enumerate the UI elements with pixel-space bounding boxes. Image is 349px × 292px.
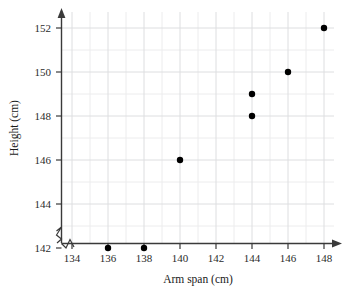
x-axis-title: Arm span (cm) xyxy=(163,273,233,286)
y-axis-ticks xyxy=(56,28,62,248)
y-axis-arrow-icon xyxy=(58,8,66,18)
data-point xyxy=(177,157,183,163)
data-point xyxy=(285,69,291,75)
x-axis-tick-label: 142 xyxy=(208,252,225,264)
y-axis-tick-label: 144 xyxy=(35,198,52,210)
y-axis-tick-label: 146 xyxy=(35,154,52,166)
x-axis-tick-labels: 134136138140142144146148 xyxy=(64,252,333,264)
y-axis-tick-label: 152 xyxy=(35,22,52,34)
data-point xyxy=(105,245,111,251)
data-point xyxy=(321,25,327,31)
data-point xyxy=(249,113,255,119)
grid-minor-lines xyxy=(62,12,334,243)
x-axis-tick-label: 138 xyxy=(136,252,153,264)
y-axis-tick-label: 150 xyxy=(35,66,52,78)
data-point xyxy=(249,91,255,97)
x-axis-tick-label: 136 xyxy=(100,252,117,264)
x-axis-tick-label: 140 xyxy=(172,252,189,264)
x-axis-tick-label: 148 xyxy=(316,252,333,264)
y-axis-tick-labels: 142144146148150152 xyxy=(35,22,52,254)
scatter-plot-figure: 134136138140142144146148 142144146148150… xyxy=(0,0,349,292)
chart-canvas: 134136138140142144146148 142144146148150… xyxy=(0,0,349,292)
x-axis-tick-label: 144 xyxy=(244,252,261,264)
data-point xyxy=(141,245,147,251)
y-axis-tick-label: 148 xyxy=(35,110,52,122)
y-axis-title: Height (cm) xyxy=(8,100,21,156)
y-axis-tick-label: 142 xyxy=(35,242,52,254)
y-axis-break-icon xyxy=(57,227,62,243)
x-axis-arrow-icon xyxy=(332,240,342,248)
x-axis-tick-label: 146 xyxy=(280,252,297,264)
x-axis-tick-label: 134 xyxy=(64,252,81,264)
